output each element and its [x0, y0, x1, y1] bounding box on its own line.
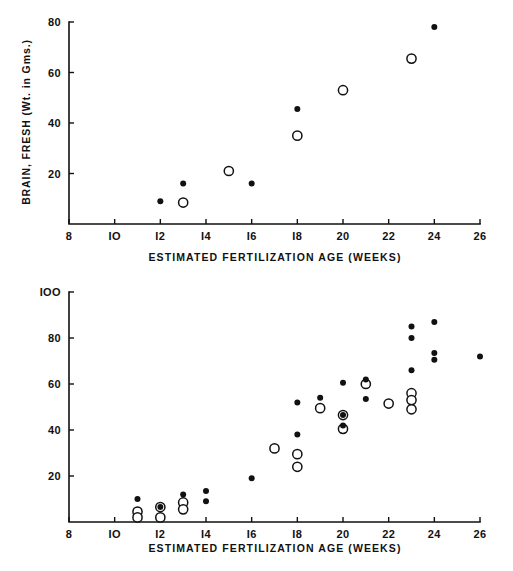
x-axis-title: ESTIMATED FERTILIZATION AGE (WEEKS) — [149, 542, 402, 554]
y-tick-label: 80 — [48, 332, 61, 344]
data-point-open-circle — [224, 166, 233, 175]
x-tick-label: IO — [108, 230, 120, 242]
x-tick-label: 22 — [382, 230, 395, 242]
axis-lines — [69, 22, 480, 224]
data-point-filled-circle — [294, 106, 300, 112]
data-point-filled-circle — [431, 24, 437, 30]
x-tick-label: I6 — [247, 230, 257, 242]
x-tick-label: I4 — [201, 230, 211, 242]
x-axis-ticks: 8IOI2I4I6I820222426 — [66, 517, 487, 540]
y-tick-label: IOO — [40, 286, 61, 298]
data-point-filled-circle — [249, 475, 255, 481]
scatter-plot-brain-fresh: 20406080 8IOI2I4I6I820222426 ESTIMATED F… — [0, 0, 513, 280]
data-point-filled-circle — [157, 198, 163, 204]
axis-lines — [69, 292, 480, 522]
chart-panel-brain-fixed: 20406080IOO 8IOI2I4I6I820222426 ESTIMATE… — [0, 280, 513, 571]
y-tick-label: 20 — [48, 470, 61, 482]
data-point-open-circle — [293, 450, 302, 459]
y-tick-label: 60 — [48, 378, 61, 390]
data-point-filled-circle — [135, 496, 141, 502]
x-axis-title: ESTIMATED FERTILIZATION AGE (WEEKS) — [149, 251, 402, 263]
data-point-open-circle — [338, 86, 347, 95]
x-tick-label: I2 — [155, 528, 165, 540]
x-tick-label: 24 — [428, 528, 442, 540]
data-point-filled-circle — [294, 399, 300, 405]
y-tick-label: 20 — [48, 168, 61, 180]
data-point-open-circle — [270, 444, 279, 453]
axes-group-fixed — [69, 292, 480, 522]
y-tick-label: 60 — [48, 67, 61, 79]
data-point-filled-circle — [340, 412, 346, 418]
x-tick-label: 26 — [473, 528, 486, 540]
data-point-filled-circle — [363, 396, 369, 402]
x-tick-label: 20 — [336, 528, 349, 540]
data-points-layer — [157, 24, 437, 207]
data-point-filled-circle — [431, 357, 437, 363]
x-tick-label: I6 — [247, 528, 257, 540]
data-point-open-circle — [407, 405, 416, 414]
data-point-filled-circle — [363, 376, 369, 382]
data-points-layer — [133, 319, 483, 522]
x-tick-label: 22 — [382, 528, 395, 540]
data-point-open-circle — [316, 404, 325, 413]
y-axis-title: BRAIN, FRESH (Wt. in Gms.) — [20, 39, 32, 205]
x-tick-label: 8 — [66, 528, 73, 540]
data-point-filled-circle — [431, 350, 437, 356]
x-tick-label: 26 — [473, 230, 486, 242]
data-point-filled-circle — [180, 181, 186, 187]
data-point-open-circle — [293, 131, 302, 140]
data-point-open-circle — [407, 54, 416, 63]
data-point-open-circle — [133, 513, 142, 522]
x-tick-label: 24 — [428, 230, 442, 242]
figure-root: 20406080 8IOI2I4I6I820222426 ESTIMATED F… — [0, 0, 513, 571]
y-tick-label: 80 — [48, 16, 61, 28]
y-tick-label: 40 — [48, 424, 61, 436]
x-tick-label: I8 — [292, 528, 302, 540]
x-tick-label: IO — [108, 528, 120, 540]
axes-group-fresh — [69, 22, 480, 224]
data-point-filled-circle — [431, 319, 437, 325]
data-point-filled-circle — [340, 422, 346, 428]
data-point-filled-circle — [203, 488, 209, 494]
data-point-open-circle — [179, 198, 188, 207]
chart-panel-brain-fresh: 20406080 8IOI2I4I6I820222426 ESTIMATED F… — [0, 0, 513, 280]
data-point-filled-circle — [477, 353, 483, 359]
x-tick-label: I8 — [292, 230, 302, 242]
x-tick-label: I4 — [201, 528, 211, 540]
x-tick-label: 8 — [66, 230, 73, 242]
y-tick-label: 40 — [48, 117, 61, 129]
y-axis-ticks: 20406080 — [48, 16, 74, 180]
scatter-plot-brain-fixed: 20406080IOO 8IOI2I4I6I820222426 ESTIMATE… — [0, 280, 513, 571]
data-point-filled-circle — [409, 324, 415, 330]
data-point-open-circle — [293, 462, 302, 471]
data-point-filled-circle — [203, 498, 209, 504]
data-point-filled-circle — [317, 395, 323, 401]
data-point-open-circle — [179, 505, 188, 514]
data-point-open-circle — [384, 399, 393, 408]
data-point-open-circle — [407, 396, 416, 405]
x-axis-ticks: 8IOI2I4I6I820222426 — [66, 219, 487, 242]
x-tick-label: 20 — [336, 230, 349, 242]
data-point-filled-circle — [294, 432, 300, 438]
data-point-filled-circle — [409, 335, 415, 341]
data-point-filled-circle — [249, 181, 255, 187]
x-tick-label: I2 — [155, 230, 165, 242]
data-point-filled-circle — [409, 367, 415, 373]
data-point-filled-circle — [340, 380, 346, 386]
data-point-open-circle — [156, 513, 165, 522]
data-point-filled-circle — [180, 491, 186, 497]
data-point-filled-circle — [157, 504, 163, 510]
